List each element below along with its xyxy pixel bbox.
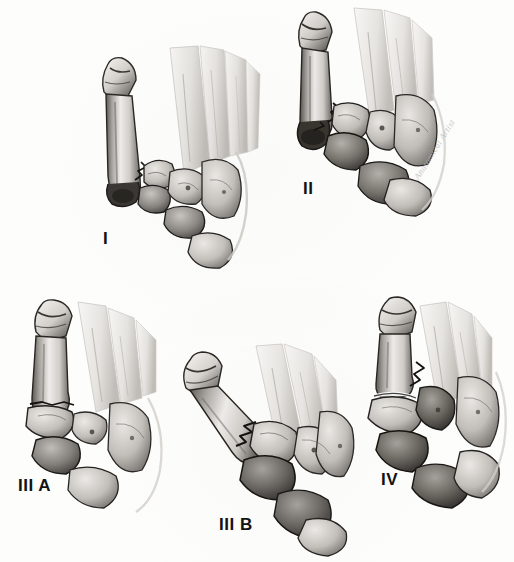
panel-label-1: I xyxy=(103,230,108,247)
tarsal-complex xyxy=(138,159,241,268)
panel-label-3b: III B xyxy=(219,516,253,533)
lesser-metatarsals xyxy=(170,46,260,174)
panel-4: IV xyxy=(358,292,513,517)
panel-label-3a: III A xyxy=(18,477,51,494)
panel-3b-illustration xyxy=(174,342,364,557)
panel-label-2: II xyxy=(303,180,313,197)
tarsal-complex xyxy=(324,95,437,216)
panel-2: II Anatomical Artist xyxy=(276,4,466,219)
tarsal-complex xyxy=(240,411,354,556)
panel-3b: III B xyxy=(174,342,364,557)
panel-3a: III A xyxy=(8,292,188,522)
first-ray xyxy=(103,58,141,207)
figure-canvas: I xyxy=(0,0,514,562)
first-ray xyxy=(376,297,416,400)
panel-1: I xyxy=(78,44,268,274)
lesser-metatarsals xyxy=(78,302,156,412)
first-ray xyxy=(32,300,72,416)
panel-label-4: IV xyxy=(381,471,398,488)
